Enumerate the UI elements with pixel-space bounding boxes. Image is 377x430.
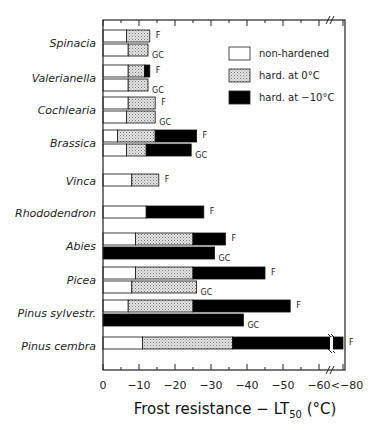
bar-segment-hard-m10 — [103, 314, 243, 326]
bar-segment-hard-m10 — [155, 130, 196, 142]
species-group: Pinus cembraF — [21, 337, 354, 353]
bar-segment-hard-0 — [143, 337, 233, 349]
legend-label: hard. at −10°C — [259, 92, 334, 103]
bar-segment-non-hardened — [103, 79, 128, 91]
species-label: Rhododendron — [15, 207, 96, 220]
bar-label-f: F — [203, 131, 208, 140]
bar-segment-hard-m10 — [233, 337, 343, 349]
bar-segment-hard-0 — [128, 79, 148, 91]
bar-segment-non-hardened — [103, 174, 132, 186]
species-group: Pinus sylvestr.FGC — [18, 300, 302, 330]
species-label: Abies — [65, 240, 96, 253]
bar-label-gc: GC — [152, 51, 164, 60]
bar-label-gc: GC — [219, 254, 231, 263]
species-group: AbiesFGC — [65, 233, 236, 263]
x-tick-label: −10 — [127, 379, 150, 392]
species-group: BrassicaFGC — [50, 130, 208, 160]
bar-label-f: F — [156, 31, 161, 40]
x-tick-label: −50 — [271, 379, 294, 392]
species-label: Pinus sylvestr. — [18, 307, 97, 320]
bar-segment-non-hardened — [103, 130, 117, 142]
bar-label-gc: GC — [195, 151, 207, 160]
x-tick-label: −20 — [163, 379, 186, 392]
bar-label-f: F — [210, 207, 215, 216]
bar-segment-hard-0 — [117, 130, 155, 142]
bar-segment-hard-0 — [126, 111, 155, 123]
bar-label-f: F — [296, 301, 301, 310]
bar-segment-hard-m10 — [146, 144, 191, 156]
bar-label-f: F — [156, 66, 161, 75]
x-tick-label: −30 — [199, 379, 222, 392]
bar-label-gc: GC — [201, 288, 213, 297]
bar-segment-hard-m10 — [193, 300, 290, 312]
bar-segment-non-hardened — [103, 144, 126, 156]
x-tick-label: <−80 — [331, 379, 363, 392]
species-label: Cochlearia — [38, 104, 97, 117]
bar-segment-hard-m10 — [103, 247, 215, 259]
bar-segment-hard-0 — [126, 144, 146, 156]
bar-segment-non-hardened — [103, 281, 132, 293]
bar-segment-hard-0 — [126, 30, 149, 42]
frost-resistance-chart: SpinaciaFGCValerianellaFGCCochleariaFGCB… — [0, 0, 377, 430]
species-group: SpinaciaFGC — [49, 30, 164, 60]
bar-segment-non-hardened — [103, 267, 135, 279]
bar-label-f: F — [349, 338, 354, 347]
bar-segment-hard-0 — [128, 44, 148, 56]
species-group: PiceaFGC — [67, 267, 276, 297]
bar-segment-hard-0 — [135, 267, 193, 279]
bar-break-gap — [330, 337, 333, 351]
bar-label-gc: GC — [159, 118, 171, 127]
bar-segment-hard-0 — [132, 174, 159, 186]
bar-segment-non-hardened — [103, 111, 126, 123]
bar-label-gc: GC — [152, 86, 164, 95]
bar-segment-non-hardened — [103, 97, 128, 109]
bar-label-f: F — [165, 175, 170, 184]
bar-segment-hard-0 — [128, 300, 193, 312]
bar-segment-non-hardened — [103, 233, 135, 245]
bar-segment-hard-0 — [135, 233, 193, 245]
species-group: VincaF — [66, 174, 170, 188]
bar-segment-hard-m10 — [193, 267, 265, 279]
legend-swatch — [229, 91, 250, 104]
legend-swatch — [229, 69, 250, 82]
bar-segment-hard-0 — [132, 281, 197, 293]
species-label: Spinacia — [49, 37, 96, 50]
bar-segment-non-hardened — [103, 206, 146, 218]
bar-segment-hard-m10 — [144, 65, 149, 77]
bar-label-f: F — [271, 268, 276, 277]
x-axis-title: Frost resistance − LT50 (°C) — [134, 400, 337, 420]
bar-segment-non-hardened — [103, 337, 143, 349]
bar-segment-non-hardened — [103, 65, 128, 77]
bar-segment-non-hardened — [103, 30, 126, 42]
species-label: Vinca — [66, 175, 97, 188]
bar-label-gc: GC — [247, 321, 259, 330]
bar-segment-hard-0 — [128, 97, 155, 109]
bar-segment-hard-0 — [128, 65, 144, 77]
legend-label: hard. at 0°C — [259, 70, 320, 81]
species-group: ValerianellaFGC — [32, 65, 165, 95]
legend: non-hardenedhard. at 0°Chard. at −10°C — [229, 47, 334, 104]
x-tick-label: −60 — [307, 379, 330, 392]
species-group: RhododendronF — [15, 206, 215, 220]
species-group: CochleariaFGC — [38, 97, 172, 127]
bar-segment-hard-m10 — [146, 206, 204, 218]
species-label: Brassica — [50, 137, 96, 150]
bar-label-f: F — [231, 234, 236, 243]
bar-segment-non-hardened — [103, 44, 128, 56]
species-label: Pinus cembra — [21, 340, 96, 353]
x-tick-label: 0 — [100, 379, 107, 392]
species-label: Valerianella — [32, 72, 97, 85]
bar-segment-non-hardened — [103, 300, 128, 312]
legend-swatch — [229, 47, 250, 60]
bar-label-f: F — [161, 98, 166, 107]
legend-label: non-hardened — [259, 48, 329, 59]
bar-segment-hard-m10 — [193, 233, 225, 245]
x-tick-label: −40 — [235, 379, 258, 392]
species-label: Picea — [67, 274, 97, 287]
